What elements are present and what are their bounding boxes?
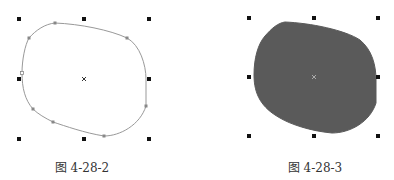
figure-left bbox=[17, 17, 151, 141]
center-x-icon bbox=[82, 77, 86, 81]
caption-left: 图 4-28-2 bbox=[37, 158, 127, 175]
figure-right bbox=[247, 16, 380, 138]
figures-canvas bbox=[0, 0, 394, 180]
caption-right: 图 4-28-3 bbox=[270, 158, 360, 175]
